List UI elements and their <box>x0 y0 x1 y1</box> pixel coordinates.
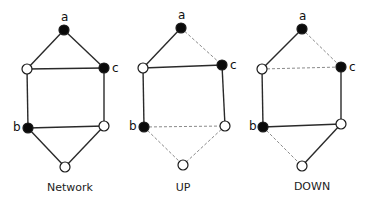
node-label-c: c <box>230 58 237 72</box>
node-lu-open <box>22 64 32 74</box>
node-label-a: a <box>299 9 306 23</box>
panel-title-up: UP <box>176 181 191 194</box>
edge-rl-bt-solid <box>65 126 104 167</box>
node-bt-open <box>178 160 188 170</box>
edge-a-lu-solid <box>143 28 181 68</box>
node-c-filled <box>336 62 346 72</box>
node-bt-open <box>60 162 70 172</box>
node-label-c: c <box>349 60 356 74</box>
node-a-filled <box>297 24 307 34</box>
node-rl-open <box>220 121 230 131</box>
edge-b-rl-dashed <box>144 126 225 127</box>
node-a-filled <box>176 23 186 33</box>
edge-b-bt-solid <box>28 128 65 167</box>
graph-diagram: acbNetwork acbUP acbDOWN <box>0 0 368 203</box>
edge-a-c-dashed <box>181 28 222 65</box>
panel-up: acbUP <box>129 8 237 194</box>
edge-b-rl-solid <box>263 124 341 127</box>
node-c-filled <box>217 60 227 70</box>
node-bt-open <box>297 161 307 171</box>
panel-down: acbDOWN <box>249 9 356 193</box>
edge-lu-c-solid <box>27 68 104 69</box>
node-label-b: b <box>129 119 137 133</box>
node-b-filled <box>23 123 33 133</box>
edge-a-c-solid <box>64 30 104 68</box>
node-label-b: b <box>249 119 257 133</box>
panel-title-network: Network <box>47 181 94 194</box>
edge-lu-b-solid <box>143 68 144 127</box>
edge-b-rl-solid <box>28 126 104 128</box>
edge-lu-c-dashed <box>262 67 341 69</box>
node-b-filled <box>139 122 149 132</box>
edge-lu-b-solid <box>262 69 263 127</box>
edge-a-lu-solid <box>262 29 302 69</box>
edge-a-lu-solid <box>27 30 64 69</box>
node-lu-open <box>138 63 148 73</box>
node-rl-open <box>336 119 346 129</box>
edge-c-rl-solid <box>222 65 225 126</box>
edge-a-c-dashed <box>302 29 341 67</box>
node-lu-open <box>257 64 267 74</box>
edge-rl-bt-solid <box>302 124 341 166</box>
node-b-filled <box>258 122 268 132</box>
node-label-a: a <box>61 10 68 24</box>
panel-network: acbNetwork <box>13 10 119 194</box>
panel-title-down: DOWN <box>294 180 330 193</box>
node-a-filled <box>59 25 69 35</box>
node-label-a: a <box>178 8 185 22</box>
node-label-c: c <box>112 61 119 75</box>
node-rl-open <box>99 121 109 131</box>
edge-lu-b-solid <box>27 69 28 128</box>
edge-rl-bt-dashed <box>183 126 225 165</box>
edge-b-bt-dashed <box>144 127 183 165</box>
node-label-b: b <box>13 120 21 134</box>
edge-b-bt-dashed <box>263 127 302 166</box>
node-c-filled <box>99 63 109 73</box>
edge-lu-c-solid <box>143 65 222 68</box>
